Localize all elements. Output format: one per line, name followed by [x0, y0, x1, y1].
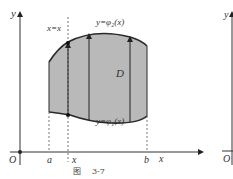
tick-label-b: b — [144, 154, 149, 165]
right-y-axis-label: y — [223, 9, 229, 20]
caption-number: 3-7 — [92, 167, 105, 176]
right-origin-label: O — [223, 153, 230, 164]
line-label: x=x — [46, 23, 61, 33]
tick-label-x: x — [71, 154, 77, 165]
region-label: D — [115, 67, 124, 79]
x-axis-label: x — [158, 153, 164, 164]
upper-curve-label: y=φ₂(x) — [95, 17, 124, 27]
y-axis-label: y — [10, 7, 16, 19]
tick-label-a: a — [47, 154, 52, 165]
origin-label: O — [9, 154, 16, 165]
caption-prefix: 图 — [73, 167, 81, 176]
lower-curve-label: y=φ₁(x) — [95, 116, 124, 126]
point-upper — [66, 41, 70, 45]
figure-3-7: y x O a x b x=x y=φ₂(x) y=φ₁(x) D 图 3-7 … — [0, 0, 233, 179]
point-lower — [66, 113, 70, 117]
region-d — [49, 33, 147, 123]
